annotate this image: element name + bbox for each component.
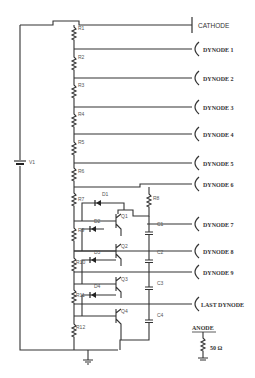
anode-load-resistor	[198, 332, 208, 360]
battery-icon	[12, 160, 28, 166]
anode-label: ANODE	[192, 325, 214, 331]
svg-text:Q1: Q1	[121, 213, 128, 219]
svg-text:Q2: Q2	[121, 243, 128, 249]
svg-text:C2: C2	[157, 249, 164, 255]
svg-text:D4: D4	[94, 283, 101, 289]
svg-text:R2: R2	[78, 54, 85, 60]
svg-text:DYNODE 8: DYNODE 8	[203, 249, 234, 255]
svg-text:R5: R5	[78, 139, 85, 145]
svg-text:Q3: Q3	[121, 276, 128, 282]
svg-text:R4: R4	[78, 111, 85, 117]
cathode-wire	[20, 21, 192, 25]
svg-text:D2: D2	[94, 218, 101, 224]
svg-text:R8: R8	[153, 195, 160, 201]
svg-text:R3: R3	[78, 82, 85, 88]
svg-text:R1: R1	[78, 25, 85, 31]
svg-text:Q4: Q4	[121, 308, 128, 314]
svg-text:D3: D3	[94, 249, 101, 255]
dynode-arcs	[195, 42, 199, 311]
v1-label: V1	[29, 159, 35, 165]
svg-text:DYNODE 3: DYNODE 3	[203, 105, 234, 111]
svg-text:DYNODE 6: DYNODE 6	[203, 182, 234, 188]
svg-text:DYNODE 7: DYNODE 7	[203, 222, 234, 228]
anode-load-label: 50 Ω	[210, 345, 223, 351]
svg-text:DYNODE 1: DYNODE 1	[203, 47, 234, 53]
svg-text:DYNODE 4: DYNODE 4	[203, 132, 234, 138]
svg-text:D1: D1	[102, 191, 109, 197]
svg-text:LAST DYNODE: LAST DYNODE	[201, 302, 244, 308]
svg-text:C4: C4	[157, 312, 164, 318]
svg-text:C3: C3	[157, 280, 164, 286]
svg-text:R7: R7	[78, 196, 85, 202]
svg-text:R12: R12	[76, 324, 85, 330]
ground-icon	[83, 350, 93, 364]
svg-text:DYNODE 2: DYNODE 2	[203, 76, 234, 82]
label-cathode: CATHODE	[198, 22, 230, 29]
capacitor-column	[120, 216, 153, 350]
svg-text:R6: R6	[78, 168, 85, 174]
schematic: V1 R1 R2 R3 R4 R5 R6 R7 R9 R10 R11 R12 R…	[0, 0, 255, 378]
svg-text:DYNODE 5: DYNODE 5	[203, 161, 234, 167]
svg-text:DYNODE 9: DYNODE 9	[203, 270, 234, 276]
svg-text:R9: R9	[78, 227, 85, 233]
svg-text:C1: C1	[157, 221, 164, 227]
